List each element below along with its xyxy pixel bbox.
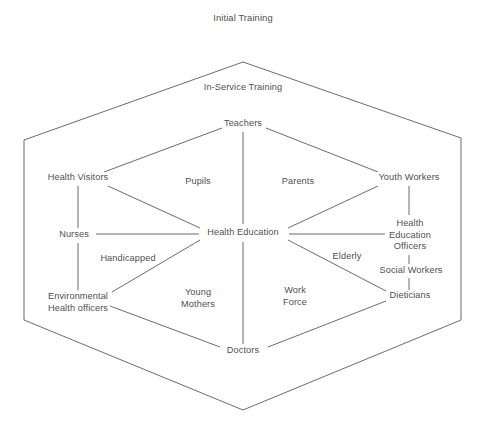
sector-label-handicapped: Handicapped	[100, 253, 155, 265]
spoke-center-health-visitors	[108, 186, 200, 228]
sector-label-young-mothers: Young Mothers	[181, 287, 215, 310]
node-environmental-health-officers[interactable]: Environmental Health officers	[46, 291, 110, 314]
vertical-connector-group	[78, 186, 409, 292]
edge-dieticians-doctors	[268, 301, 386, 347]
sector-label-elderly: Elderly	[333, 251, 362, 263]
sector-label-work-force: Work Force	[283, 285, 307, 308]
node-teachers[interactable]: Teachers	[222, 118, 264, 130]
edge-teachers-youth-workers	[266, 128, 378, 172]
sector-label-parents: Parents	[282, 176, 314, 188]
node-social-workers[interactable]: Social Workers	[377, 265, 444, 277]
spoke-center-dieticians	[288, 240, 386, 291]
edge-health-visitors-teachers	[104, 128, 222, 172]
node-health-education[interactable]: Health Education	[205, 227, 281, 239]
sector-label-pupils: Pupils	[185, 176, 211, 188]
diagram-title: Initial Training	[213, 12, 272, 24]
node-doctors[interactable]: Doctors	[225, 345, 261, 357]
node-youth-workers[interactable]: Youth Workers	[376, 172, 441, 184]
node-nurses[interactable]: Nurses	[57, 229, 91, 241]
spoke-center-youth-workers	[288, 186, 378, 228]
diagram-subtitle: In-Service Training	[204, 82, 283, 94]
edge-doctors-environmental	[110, 306, 220, 347]
network-diagram: Initial Training In-Service Training Tea…	[0, 0, 486, 435]
node-health-visitors[interactable]: Health Visitors	[46, 172, 111, 184]
node-health-education-officers[interactable]: Health Education Officers	[387, 218, 433, 253]
spoke-center-environmental	[112, 240, 200, 292]
node-dieticians[interactable]: Dieticians	[388, 290, 433, 302]
